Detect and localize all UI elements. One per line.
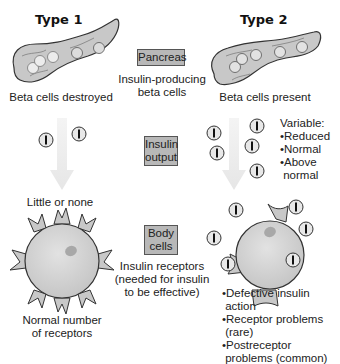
body-cell-type1-illustration xyxy=(10,208,114,314)
type1-cell-caption-line1: Normal number xyxy=(12,314,112,327)
variable-title: Variable: xyxy=(280,117,330,130)
insulin-output-line2: output xyxy=(145,151,177,164)
insulin-molecule-icon xyxy=(229,203,243,217)
insulin-molecule-icon xyxy=(289,200,303,214)
insulin-molecule-icon xyxy=(245,139,259,153)
insulin-molecule-icon xyxy=(250,119,264,133)
insulin-molecule-icon xyxy=(210,146,224,160)
note-defective-insulin-action: •Defective insulin action xyxy=(222,287,327,313)
insulin-molecule-icon xyxy=(299,222,313,236)
insulin-molecule-icon xyxy=(207,231,221,245)
insulin-molecule-icon xyxy=(72,127,86,141)
type2-insulin-caption: Variable: •Reduced •Normal •Above normal xyxy=(280,117,330,182)
body-cells-caption-line3: to be effective) xyxy=(106,286,218,299)
type2-cell-notes: •Defective insulin action •Receptor prob… xyxy=(222,287,327,364)
note-receptor-problems: •Receptor problems (rare) xyxy=(222,313,327,339)
variable-item-normal: •Normal xyxy=(280,143,330,156)
body-cells-line1: Body xyxy=(145,227,177,240)
insulin-molecule-icon xyxy=(286,253,300,267)
pancreas-caption-line2: beta cells xyxy=(112,86,212,99)
type2-title: Type 2 xyxy=(240,12,288,27)
insulin-molecule-icon xyxy=(207,126,221,140)
down-arrow-type2 xyxy=(222,118,246,190)
pancreas-label-box: Pancreas xyxy=(137,49,185,66)
variable-item-above-normal: •Above normal xyxy=(280,156,330,182)
pancreas-type1-illustration xyxy=(13,19,119,82)
type1-pancreas-caption: Beta cells destroyed xyxy=(6,91,116,104)
insulin-molecule-icon xyxy=(250,164,264,178)
pancreas-type2-illustration xyxy=(212,32,321,85)
insulin-output-label-box: Insulin output xyxy=(144,136,178,166)
type1-cell-caption-line2: of receptors xyxy=(12,327,112,340)
note-postreceptor-problems: •Postreceptor problems (common) xyxy=(222,339,327,364)
body-cells-caption-line2: (needed for insulin xyxy=(106,273,218,286)
body-cells-line2: cells xyxy=(145,240,177,253)
type1-insulin-caption: Little or none xyxy=(10,196,110,209)
insulin-output-line1: Insulin xyxy=(145,138,177,151)
insulin-molecule-icon xyxy=(221,257,235,271)
down-arrow-type1 xyxy=(50,118,74,190)
insulin-molecule-icon xyxy=(39,133,53,147)
type2-pancreas-caption: Beta cells present xyxy=(210,91,320,104)
body-cells-label-box: Body cells xyxy=(144,225,178,255)
body-cells-caption-line1: Insulin receptors xyxy=(106,260,218,273)
type1-title: Type 1 xyxy=(35,12,83,27)
variable-item-reduced: •Reduced xyxy=(280,130,330,143)
pancreas-caption-line1: Insulin-producing xyxy=(112,73,212,86)
